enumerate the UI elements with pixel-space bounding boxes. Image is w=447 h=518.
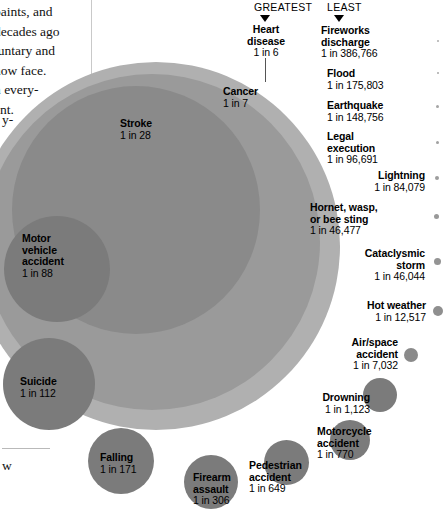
label-suicide-name: Suicide [20, 376, 57, 388]
label-legal-odds: 1 in 96,691 [327, 154, 378, 166]
label-hot-weather: Hot weather 1 in 12,517 [330, 300, 426, 323]
label-stroke: Stroke 1 in 28 [120, 118, 152, 141]
infographic-canvas: paints, and decades ago luntary and now … [0, 0, 447, 518]
article-line: decades ago [0, 22, 90, 42]
bubble-legal-execution [436, 141, 439, 144]
label-earthquake: Earthquake 1 in 148,756 [327, 100, 384, 123]
label-stroke-name: Stroke [120, 118, 152, 130]
article-fragment-top: y- [2, 112, 13, 128]
label-drowning: Drowning 1 in 1,123 [288, 392, 370, 415]
label-quake-odds: 1 in 148,756 [327, 112, 384, 124]
label-falling-odds: 1 in 171 [100, 464, 137, 476]
label-firearm-odds: 1 in 306 [193, 495, 231, 507]
label-hornet-odds: 1 in 46,477 [310, 225, 378, 237]
label-cancer: Cancer 1 in 7 [223, 86, 258, 109]
bubble-hornet-wasp-bee-sting [434, 214, 439, 219]
label-mva-name1: Motor [22, 233, 64, 245]
label-firearm-assault: Firearm assault 1 in 306 [193, 472, 231, 507]
label-flood: Flood 1 in 175,803 [327, 68, 384, 91]
label-cancer-odds: 1 in 7 [223, 98, 258, 110]
bubble-cataclysmic-storm [434, 258, 441, 265]
article-horizontal-rule [2, 448, 50, 449]
bubble-flood [437, 72, 439, 74]
label-drowning-name: Drowning [288, 392, 370, 404]
label-heart-disease: Heart disease 1 in 6 [232, 24, 300, 59]
label-ped-name1: Pedestrian [249, 460, 302, 472]
article-line: paints, and [0, 2, 90, 22]
label-suicide: Suicide 1 in 112 [20, 376, 57, 399]
label-storm-odds: 1 in 46,044 [320, 271, 425, 283]
label-quake-name: Earthquake [327, 100, 384, 112]
label-lightning-name: Lightning [330, 170, 425, 182]
label-hornet-wasp-bee-sting: Hornet, wasp, or bee sting 1 in 46,477 [310, 202, 378, 237]
label-flood-name: Flood [327, 68, 384, 80]
label-air-odds: 1 in 7,032 [310, 360, 398, 372]
label-air-name1: Air/space [310, 337, 398, 349]
label-drowning-odds: 1 in 1,123 [288, 404, 370, 416]
least-arrow-icon [334, 15, 344, 22]
label-pedestrian-accident: Pedestrian accident 1 in 649 [249, 460, 302, 495]
label-storm-name1: Cataclysmic [320, 248, 425, 260]
label-mva-odds: 1 in 88 [22, 268, 64, 280]
bubble-hot-weather [433, 306, 443, 316]
label-hornet-name1: Hornet, wasp, [310, 202, 378, 214]
label-falling-name: Falling [100, 452, 137, 464]
label-heart-disease-name: Heart [232, 24, 300, 36]
label-fireworks-discharge: Fireworks discharge 1 in 386,766 [321, 25, 378, 60]
bubble-fireworks-discharge [437, 40, 439, 42]
label-flood-odds: 1 in 175,803 [327, 80, 384, 92]
label-air-space-accident: Air/space accident 1 in 7,032 [310, 337, 398, 372]
label-suicide-odds: 1 in 112 [20, 388, 57, 400]
heart-disease-leader-line [265, 58, 266, 82]
label-firearm-name1: Firearm [193, 472, 231, 484]
bubble-air-space-accident [404, 348, 418, 362]
article-fragment-bottom: w [2, 458, 12, 474]
label-stroke-odds: 1 in 28 [120, 130, 152, 142]
label-fire-odds: 1 in 386,766 [321, 48, 378, 60]
label-motor-vehicle-accident: Motor vehicle accident 1 in 88 [22, 233, 64, 280]
label-heart-disease-odds: 1 in 6 [232, 47, 300, 59]
label-legal-execution: Legal execution 1 in 96,691 [327, 131, 378, 166]
least-header: LEAST [327, 1, 362, 13]
bubble-earthquake [436, 105, 439, 108]
label-cancer-name: Cancer [223, 86, 258, 98]
label-lightning-odds: 1 in 84,079 [330, 182, 425, 194]
article-line: now face. [0, 61, 90, 81]
article-line: luntary and [0, 41, 90, 61]
label-fire-name1: Fireworks [321, 25, 378, 37]
bubble-lightning [435, 176, 439, 180]
greatest-arrow-icon [260, 15, 270, 22]
label-motorcycle-accident: Motorcycle accident 1 in 770 [317, 426, 371, 461]
label-moto-name1: Motorcycle [317, 426, 371, 438]
label-hot-odds: 1 in 12,517 [330, 312, 426, 324]
label-lightning: Lightning 1 in 84,079 [330, 170, 425, 193]
greatest-header: GREATEST [254, 1, 312, 13]
label-hot-name: Hot weather [330, 300, 426, 312]
label-legal-name1: Legal [327, 131, 378, 143]
label-cataclysmic-storm: Cataclysmic storm 1 in 46,044 [320, 248, 425, 283]
label-ped-odds: 1 in 649 [249, 483, 302, 495]
label-falling: Falling 1 in 171 [100, 452, 137, 475]
label-moto-odds: 1 in 770 [317, 449, 371, 461]
